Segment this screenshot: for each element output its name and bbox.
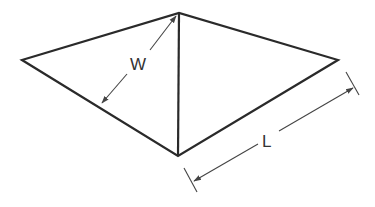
length-dimension	[184, 72, 359, 192]
shape-outline	[22, 13, 338, 156]
rhombus-dimension-diagram: W L	[0, 0, 375, 207]
rhombus-outline	[22, 13, 338, 156]
length-arrow-lower	[194, 144, 258, 181]
width-arrow-lower	[102, 74, 127, 103]
width-label: W	[130, 55, 146, 74]
length-arrow-upper	[279, 88, 353, 131]
length-label: L	[262, 132, 271, 151]
vertical-diagonal	[178, 13, 179, 156]
